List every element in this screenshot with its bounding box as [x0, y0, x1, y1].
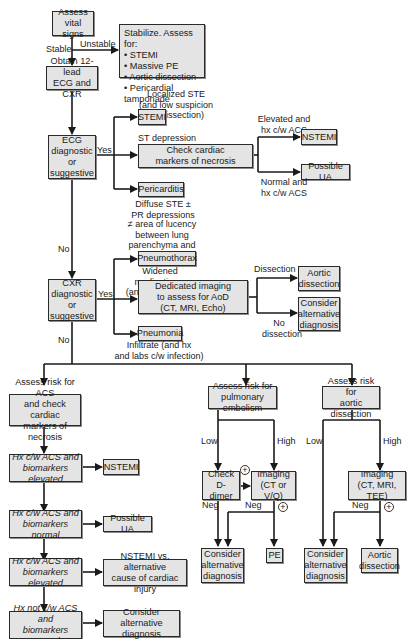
aortic-dissection-bottom-box: Aortic dissection — [361, 548, 398, 573]
pericarditis-box: Pericarditis — [138, 182, 184, 197]
no-dissection-label: No dissection — [262, 318, 296, 339]
diffuse-ste-label: Diffuse STE ± PR depressions — [118, 199, 208, 220]
aod-neg-label: Neg — [352, 500, 369, 511]
normal-hx-label: Normal and hx c/w ACS — [254, 177, 314, 198]
pe-box: PE — [266, 548, 283, 563]
pneumonia-box: Pneumonia — [138, 326, 182, 341]
consider-alternative-acs-box: Consider alternative diagnosis — [103, 610, 180, 637]
aortic-dissection-top-box: Aortic dissection — [298, 266, 340, 291]
assess-pe-box: Assess risk for pulmonary embolism — [208, 386, 277, 409]
dissection-label: Dissection — [254, 264, 296, 275]
ecg-diagnostic-box: ECG diagnostic or suggestive — [48, 135, 96, 179]
chest-pain-flowchart: Assess vital signs Stabilize. Assess for… — [0, 0, 413, 639]
imaging-positive-icon: + — [278, 502, 288, 512]
cxr-no-label: No — [58, 335, 70, 346]
aod-low-label: Low — [306, 436, 323, 447]
check-d-dimer-box: Check D-dimer — [202, 471, 240, 500]
nstemi-top-box: NSTEMI — [301, 129, 337, 145]
imaging-pe-box: Imaging (CT or V/Q) — [251, 471, 296, 500]
infiltrate-label: Infiltrate (and hx and labs c/w infectio… — [104, 340, 214, 361]
check-cardiac-markers-box: Check cardiac markers of necrosis — [138, 144, 253, 168]
ecg-yes-label: Yes — [97, 145, 112, 156]
aod-high-label: High — [383, 436, 402, 447]
stemi-box: STEMI — [138, 109, 166, 125]
consider-alternative-pe-box: Consider alternative diagnosis — [201, 548, 244, 583]
assess-vital-signs-box: Assess vital signs — [52, 11, 94, 36]
ecg-no-label: No — [58, 244, 70, 255]
consider-alternative-top-box: Consider alternative diagnosis — [298, 297, 340, 331]
localized-ste-label: Localized STE (and low suspicion for dis… — [116, 89, 236, 121]
unstable-label: Unstable — [80, 39, 116, 50]
nstemi-vs-alternative-box: NSTEMI vs. alternative cause of cardiac … — [103, 559, 187, 586]
hx-not-acs-normal-box: Hx not c/w ACS and biomarkers normal — [9, 611, 82, 639]
pe-low-label: Low — [201, 436, 218, 447]
pe-neg-imaging-label: Neg — [245, 500, 262, 511]
dedicated-imaging-box: Dedicated imaging to assess for AoD (CT,… — [138, 280, 248, 314]
stabilize-box: Stabilize. Assess for: • STEMI • Massive… — [119, 24, 205, 78]
pe-high-label: High — [277, 436, 296, 447]
hx-acs-normal-box: Hx c/w ACS and biomarkers normal — [9, 510, 82, 538]
cxr-yes-label: Yes — [98, 289, 113, 300]
pe-neg-ddimer-label: Neg — [202, 500, 219, 511]
consider-alternative-aod-box: Consider alternative diagnosis — [304, 548, 347, 583]
aod-positive-icon: + — [384, 502, 394, 512]
hx-acs-elevated-1-box: Hx c/w ACS and biomarkers elevated — [9, 454, 82, 482]
stable-label: Stable — [46, 44, 72, 55]
obtain-ecg-cxr-box: Obtain 12-lead ECG and CXR — [46, 66, 98, 90]
assess-aod-box: Assess risk for aortic dissection — [322, 386, 380, 409]
ddimer-positive-icon: + — [240, 465, 250, 475]
assess-acs-box: Assess risk for ACS and check cardiac ma… — [9, 394, 81, 426]
hx-acs-elevated-2-box: Hx c/w ACS and biomarkers elevated — [9, 558, 82, 586]
cxr-diagnostic-box: CXR diagnostic or suggestive — [48, 279, 96, 321]
pneumothorax-box: Pneumothorax — [138, 251, 196, 266]
possible-ua-bottom-box: Possible UA — [103, 516, 152, 532]
nstemi-bottom-box: NSTEMI — [103, 459, 139, 475]
imaging-aod-box: Imaging (CT, MRI, TEE) — [348, 471, 406, 500]
